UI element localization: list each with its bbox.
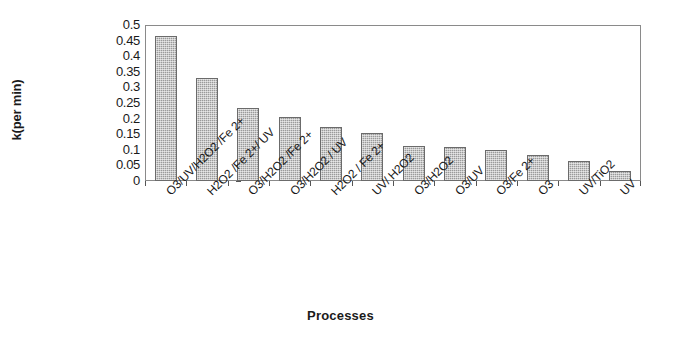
bar-chart-figure: k(per min) 0.50.450.40.350.30.250.20.150… (0, 0, 681, 356)
y-tick-label: 0.3 (96, 80, 140, 93)
y-axis-tick-labels: 0.50.450.40.350.30.250.20.150.10.050 (96, 25, 140, 181)
y-tick-label: 0.35 (96, 65, 140, 78)
y-tick-label: 0 (96, 174, 140, 187)
y-tick-label: 0.15 (96, 127, 140, 140)
x-axis-title: Processes (0, 308, 681, 323)
bar-slot (145, 25, 186, 181)
y-tick-label: 0.25 (96, 96, 140, 109)
y-tick-label: 0.05 (96, 158, 140, 171)
x-label-slot: UV (600, 187, 641, 307)
bars-layer (145, 25, 641, 181)
y-tick-label: 0.1 (96, 143, 140, 156)
y-tick-label: 0.2 (96, 112, 140, 125)
x-label-slot: O3/UV (434, 187, 475, 307)
x-label-slot: O3/Fe 2+ (476, 187, 517, 307)
x-label-slot: UV/ H2O2 (352, 187, 393, 307)
y-axis-title: k(per min) (4, 50, 28, 170)
x-axis-tick-labels: O3/UV/H2O2 /Fe 2+H2O2 /Fe 2+/ UVO3/H2O2 … (145, 187, 641, 307)
x-label-slot: UV/TiO2 (558, 187, 599, 307)
bar-slot (558, 25, 599, 181)
x-label-slot: O3/H2O2 (393, 187, 434, 307)
x-tick-mark (640, 181, 641, 186)
x-label-slot: H2O2 /Fe 2+/ UV (186, 187, 227, 307)
x-tick-mark (558, 181, 559, 186)
x-label-slot: H2O2 / Fe 2+ (310, 187, 351, 307)
bar-slot (476, 25, 517, 181)
y-tick-label: 0.4 (96, 49, 140, 62)
bar (155, 36, 177, 181)
x-tick-mark (145, 181, 146, 186)
y-tick-label: 0.5 (96, 18, 140, 31)
x-label-slot: O3/UV/H2O2 /Fe 2+ (145, 187, 186, 307)
x-label-slot: O3 (517, 187, 558, 307)
y-tick-label: 0.45 (96, 34, 140, 47)
x-label-slot: O3/H2O2 / UV (269, 187, 310, 307)
x-label-slot: O3/H2O2 /Fe 2+ (228, 187, 269, 307)
